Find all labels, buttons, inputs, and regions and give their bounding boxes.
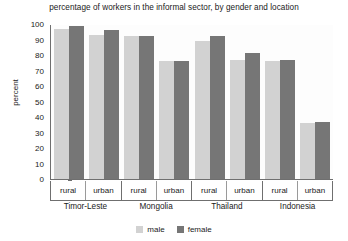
bar-female <box>139 36 154 179</box>
category-cell-rural: rural <box>51 181 85 200</box>
country-label: Thailand <box>192 202 263 218</box>
bar-male <box>159 61 174 179</box>
bar-male <box>230 60 245 179</box>
legend-label: male <box>147 225 164 234</box>
bar-pair <box>157 25 192 179</box>
bar-groups <box>51 25 333 179</box>
y-tick-label: 90 <box>22 37 44 45</box>
chart-title: percentage of workers in the informal se… <box>0 3 348 12</box>
y-tick-label: 30 <box>22 130 44 138</box>
bar-male <box>265 61 280 179</box>
bar-group <box>122 25 193 179</box>
y-tick-label: 70 <box>22 68 44 76</box>
bar-pair <box>298 25 333 179</box>
y-tick-label: 50 <box>22 99 44 107</box>
category-group: ruralurban <box>262 181 333 200</box>
category-cell-urban: urban <box>226 181 261 200</box>
category-cell-urban: urban <box>156 181 191 200</box>
country-labels: Timor-LesteMongoliaThailandIndonesia <box>50 202 333 218</box>
y-tick-label: 80 <box>22 52 44 60</box>
bar-pair <box>192 25 227 179</box>
bar-male <box>89 35 104 179</box>
bar-pair <box>122 25 157 179</box>
bar-male <box>300 123 315 179</box>
legend-item-male: male <box>136 225 164 234</box>
category-cell-urban: urban <box>85 181 120 200</box>
bar-female <box>210 36 225 179</box>
bar-male <box>124 36 139 179</box>
bar-male <box>195 41 210 179</box>
category-group: ruralurban <box>121 181 192 200</box>
chart-container: percentage of workers in the informal se… <box>0 0 348 241</box>
country-label: Indonesia <box>262 202 333 218</box>
country-label: Timor-Leste <box>50 202 121 218</box>
bar-male <box>54 29 69 179</box>
category-cell-rural: rural <box>192 181 226 200</box>
bar-female <box>104 30 119 179</box>
category-axis-band: ruralurbanruralurbanruralurbanruralurban <box>50 181 333 201</box>
legend-item-female: female <box>177 225 212 234</box>
bar-female <box>315 122 330 179</box>
bar-female <box>280 60 295 179</box>
bar-pair <box>263 25 298 179</box>
y-tick-label: 40 <box>22 114 44 122</box>
bar-pair <box>227 25 262 179</box>
y-tick-label: 20 <box>22 145 44 153</box>
legend-swatch-male <box>136 226 143 233</box>
category-cell-rural: rural <box>263 181 297 200</box>
plot-area <box>50 25 333 180</box>
category-group: ruralurban <box>51 181 121 200</box>
bar-group <box>192 25 263 179</box>
category-cell-rural: rural <box>122 181 156 200</box>
bar-pair <box>51 25 86 179</box>
y-axis-label: percent <box>11 63 20 123</box>
legend-swatch-female <box>177 226 184 233</box>
bar-pair <box>86 25 121 179</box>
legend-label: female <box>188 225 212 234</box>
bar-group <box>263 25 334 179</box>
category-group: ruralurban <box>191 181 262 200</box>
bar-female <box>245 53 260 179</box>
category-cell-urban: urban <box>297 181 332 200</box>
chart-legend: malefemale <box>0 222 348 236</box>
y-tick-label: 0 <box>22 176 44 184</box>
y-tick-label: 10 <box>22 161 44 169</box>
bar-female <box>69 26 84 179</box>
country-label: Mongolia <box>121 202 192 218</box>
bar-female <box>174 61 189 179</box>
bar-group <box>51 25 122 179</box>
y-axis-ticks: 1009080706050403020100 <box>22 25 44 180</box>
y-tick-label: 100 <box>22 21 44 29</box>
y-tick-label: 60 <box>22 83 44 91</box>
